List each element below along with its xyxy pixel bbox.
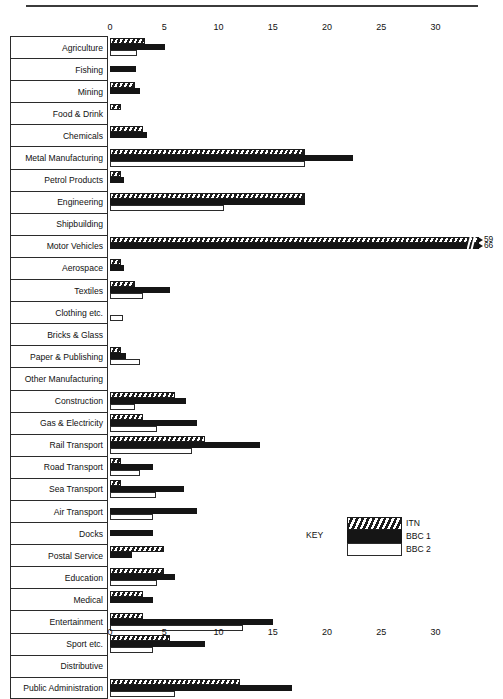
bar-bbc2 [110,492,156,498]
bar-group [110,237,480,255]
category-row: Paper & Publishing [10,345,108,367]
bar-group [110,370,480,388]
bar-bbc2 [110,404,135,410]
x-axis-tick-0: 0 [107,22,112,33]
category-label: Medical [73,595,103,605]
category-row: Engineering [10,191,108,213]
bar-group [110,480,480,498]
category-row: Sea Transport [10,478,108,500]
legend-label-itn: ITN [406,517,420,530]
category-row: Other Manufacturing [10,367,108,389]
x-axis-tick-30: 30 [430,22,440,33]
category-row: Petrol Products [10,169,108,191]
bar-group [110,259,480,277]
category-label: Distributive [60,661,103,671]
category-row: Mining [10,80,108,102]
bar-bbc1 [110,243,479,249]
bar-bbc2 [110,647,153,653]
x-axis-tick-25: 25 [376,22,386,33]
category-label: Bricks & Glass [47,330,103,340]
bar-bbc1 [110,177,124,183]
bar-bbc1 [110,597,153,603]
category-row: Public Administration [10,677,108,699]
category-row: Shipbuilding [10,213,108,235]
x-axis-tick-5: 5 [162,22,167,33]
bar-group [110,679,480,697]
category-label: Shipbuilding [56,219,103,229]
category-row: Gas & Electricity [10,412,108,434]
category-label: Gas & Electricity [40,418,103,428]
category-label: Other Manufacturing [25,374,103,384]
legend-swatch-itn [347,517,402,530]
category-row: Bricks & Glass [10,323,108,345]
x-axis-tick-15: 15 [268,627,278,638]
axis-break-marker [467,236,476,251]
category-row: Construction [10,390,108,412]
bar-bbc2 [110,293,143,299]
bar-group [110,193,480,211]
bar-itn [110,104,121,110]
category-label: Sea Transport [49,484,103,494]
category-label: Engineering [57,197,103,207]
bar-group [110,568,480,586]
bar-bbc2 [110,448,192,454]
category-row: Textiles [10,279,108,301]
category-label: Public Administration [23,683,103,693]
category-label: Fishing [75,65,103,75]
legend-label-bbc2: BBC 2 [406,543,431,556]
category-row: Air Transport [10,500,108,522]
category-label: Agriculture [62,43,103,53]
bar-group [110,149,480,167]
category-row: Rail Transport [10,434,108,456]
bar-bbc1 [110,530,153,536]
category-row: Docks [10,522,108,544]
category-label: Paper & Publishing [30,352,103,362]
category-row: Metal Manufacturing [10,146,108,168]
category-label: Motor Vehicles [47,241,103,251]
bar-group [110,60,480,78]
bar-group [110,281,480,299]
category-label: Rail Transport [50,440,104,450]
bar-bbc2 [110,470,140,476]
category-label: Construction [55,396,103,406]
category-label: Clothing etc. [55,308,103,318]
bar-group [110,104,480,122]
legend-swatch-bbc2 [347,543,402,556]
bar-bbc2 [110,50,137,56]
category-label: Mining [78,87,103,97]
bar-group [110,414,480,432]
bar-bbc1 [110,265,124,271]
category-row: Education [10,566,108,588]
x-axis-top: 051015202530 [0,22,503,36]
bar-group [110,38,480,56]
category-row: Motor Vehicles [10,235,108,257]
bar-group [110,347,480,365]
category-row: Road Transport [10,456,108,478]
x-axis-tick-15: 15 [268,22,278,33]
bar-bbc2 [110,205,224,211]
category-row: Fishing [10,58,108,80]
bar-group [110,171,480,189]
bar-bbc2 [110,691,175,697]
chart-legend: KEY ITN BBC 1 BBC 2 [306,517,426,561]
break-value-label: 66 [484,241,493,250]
category-label: Air Transport [54,507,103,517]
category-label: Metal Manufacturing [25,153,103,163]
category-label: Education [65,573,103,583]
category-row: Agriculture [10,36,108,58]
x-axis-tick-25: 25 [376,627,386,638]
category-label: Entertainment [49,617,103,627]
x-axis-tick-10: 10 [213,627,223,638]
category-row: Postal Service [10,544,108,566]
category-label: Petrol Products [44,175,103,185]
category-label: Road Transport [44,462,103,472]
bar-group [110,303,480,321]
bar-bbc1 [110,88,140,94]
x-axis-tick-5: 5 [162,627,167,638]
bar-group [110,82,480,100]
bar-group [110,458,480,476]
bar-bbc2 [110,580,157,586]
break-arrow-66 [478,243,483,249]
category-row: Food & Drink [10,102,108,124]
